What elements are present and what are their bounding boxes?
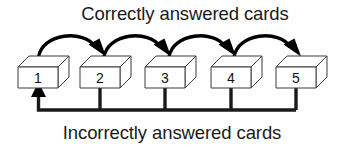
box-3[interactable]: 3 xyxy=(145,56,196,88)
box-5-label: 5 xyxy=(292,70,300,86)
forward-arrow-4-to-5 xyxy=(234,36,301,57)
box-1-label: 1 xyxy=(34,70,42,86)
leitner-box-diagram: Correctly answered cards xyxy=(0,0,340,147)
forward-arrow-group xyxy=(39,36,302,57)
forward-arrow-1-to-2 xyxy=(39,36,107,57)
box-4-label: 4 xyxy=(227,70,235,86)
top-caption-label: Correctly answered cards xyxy=(81,3,288,24)
box-2[interactable]: 2 xyxy=(80,56,131,88)
return-rail xyxy=(39,95,297,110)
box-3-label: 3 xyxy=(161,70,169,86)
forward-arrow-3-to-4 xyxy=(169,36,236,57)
bottom-caption-label: Incorrectly answered cards xyxy=(63,122,281,143)
box-2-label: 2 xyxy=(96,70,104,86)
box-1[interactable]: 1 xyxy=(18,56,69,88)
box-5[interactable]: 5 xyxy=(276,56,327,88)
forward-arrow-2-to-3 xyxy=(104,36,171,57)
box-4[interactable]: 4 xyxy=(211,56,262,88)
diagram-canvas: Correctly answered cards xyxy=(0,0,340,147)
box-group: 1 2 3 4 xyxy=(18,56,327,88)
